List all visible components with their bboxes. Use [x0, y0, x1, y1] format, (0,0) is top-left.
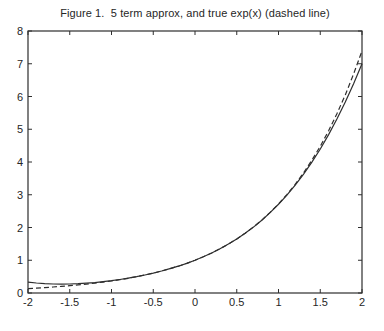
x-tick-label: 0.5 [229, 296, 244, 308]
x-tick-label: 1 [275, 296, 281, 308]
y-tick-label: 2 [17, 222, 23, 234]
x-tick-label: -2 [23, 296, 33, 308]
y-tick-label: 7 [17, 58, 23, 70]
matlab-figure: Figure 1. 5 term approx, and true exp(x)… [0, 0, 384, 331]
x-tick-label: -1.5 [60, 296, 79, 308]
plot-canvas: -2-1.5-1-0.500.511.52012345678 [0, 0, 384, 331]
y-tick-label: 3 [17, 189, 23, 201]
x-tick-label: 2 [359, 296, 365, 308]
x-tick-label: 0 [192, 296, 198, 308]
x-tick-label: 1.5 [313, 296, 328, 308]
curve-dashed [28, 51, 362, 289]
curve-solid [28, 64, 362, 284]
x-tick-label: -1 [107, 296, 117, 308]
y-tick-label: 5 [17, 123, 23, 135]
y-tick-label: 8 [17, 25, 23, 37]
y-tick-label: 4 [17, 156, 23, 168]
y-tick-label: 6 [17, 91, 23, 103]
y-tick-label: 1 [17, 254, 23, 266]
x-tick-label: -0.5 [144, 296, 163, 308]
y-tick-label: 0 [17, 287, 23, 299]
